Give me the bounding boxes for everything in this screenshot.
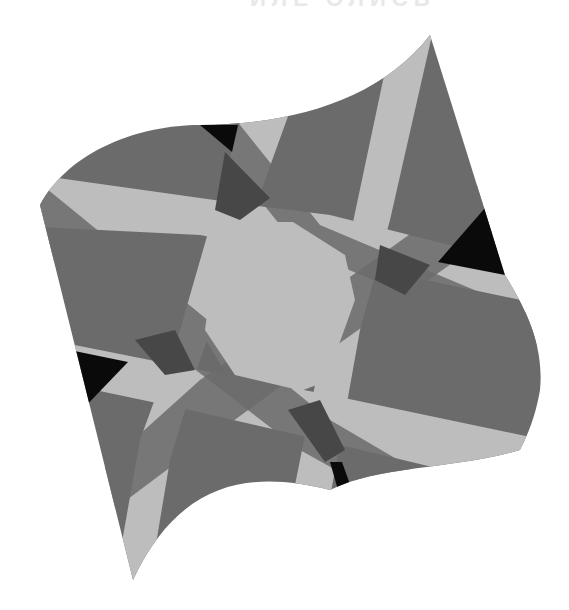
geometric-artwork [0,0,569,610]
pattern-group [0,0,569,610]
